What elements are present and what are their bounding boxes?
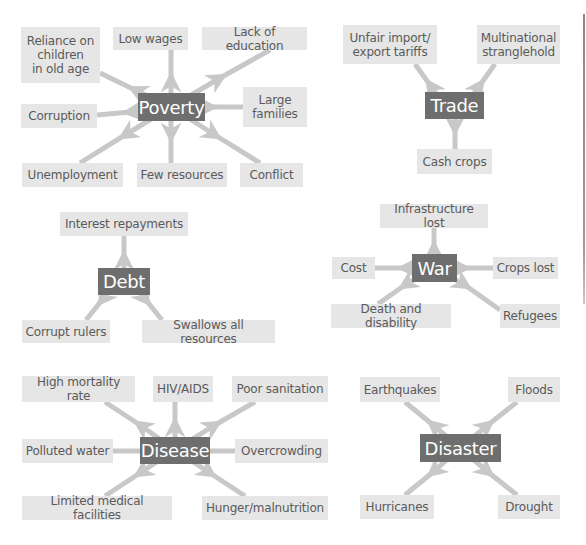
leaf-low-wages: Low wages (113, 27, 188, 50)
leaf-refugees: Refugees (500, 304, 560, 328)
leaf-multinational-stranglehold: Multinational stranglehold (477, 25, 560, 64)
leaf-crops-lost: Crops lost (493, 257, 558, 279)
leaf-floods: Floods (508, 377, 560, 402)
leaf-unemployment: Unemployment (22, 163, 123, 187)
leaf-overcrowding: Overcrowding (235, 439, 328, 463)
hub-disease: Disease (140, 437, 210, 464)
leaf-swallows-all-resources: Swallows all resources (142, 320, 275, 343)
hub-debt: Debt (98, 268, 150, 295)
leaf-high-mortality-rate: High mortality rate (22, 376, 135, 402)
hub-war: War (412, 254, 457, 282)
hub-poverty: Poverty (138, 93, 205, 121)
leaf-hunger-malnutrition: Hunger/malnutrition (202, 496, 328, 520)
leaf-reliance-on-children: Reliance on children in old age (21, 27, 100, 83)
hub-trade: Trade (425, 92, 484, 119)
leaf-cash-crops: Cash crops (417, 149, 492, 174)
leaf-few-resources: Few resources (137, 163, 227, 187)
leaf-hiv-aids: HIV/AIDS (153, 376, 213, 402)
leaf-cost: Cost (332, 257, 375, 279)
leaf-large-families: Large families (243, 87, 307, 127)
leaf-corrupt-rulers: Corrupt rulers (22, 320, 110, 343)
leaf-infrastructure-lost: Infrastructure lost (380, 204, 488, 228)
leaf-drought: Drought (498, 495, 560, 519)
leaf-corruption: Corruption (21, 104, 97, 128)
leaf-limited-medical-facilities: Limited medical facilities (22, 496, 172, 520)
leaf-conflict: Conflict (240, 163, 303, 187)
leaf-interest-repayments: Interest repayments (60, 212, 188, 236)
leaf-lack-of-education: Lack of education (202, 27, 307, 50)
leaf-poor-sanitation: Poor sanitation (232, 376, 328, 402)
leaf-unfair-tariffs: Unfair import/ export tariffs (343, 25, 437, 64)
hub-disaster: Disaster (420, 434, 501, 462)
leaf-death-and-disability: Death and disability (331, 304, 451, 328)
leaf-earthquakes: Earthquakes (360, 377, 440, 402)
leaf-polluted-water: Polluted water (22, 439, 113, 463)
page-edge-divider (583, 14, 585, 304)
leaf-hurricanes: Hurricanes (360, 495, 434, 519)
